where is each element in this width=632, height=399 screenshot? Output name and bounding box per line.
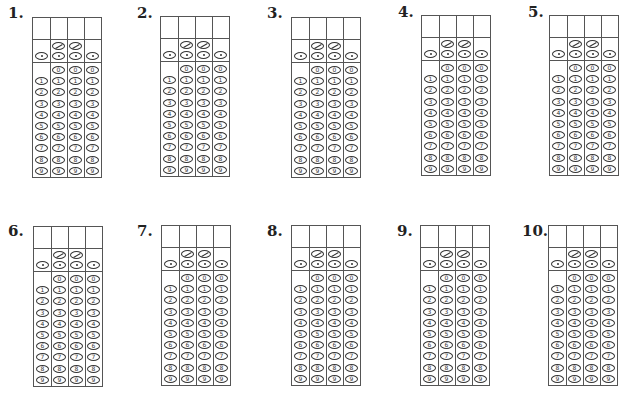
digit-bubble-8[interactable]: 8 bbox=[569, 154, 582, 162]
decimal-point-bubble[interactable] bbox=[86, 52, 99, 60]
digit-bubble-4[interactable]: 4 bbox=[311, 319, 324, 327]
digit-bubble-4[interactable]: 4 bbox=[345, 319, 358, 327]
decimal-point-bubble[interactable] bbox=[35, 52, 48, 60]
digit-bubble-5[interactable]: 5 bbox=[475, 120, 488, 128]
digit-bubble-1[interactable]: 1 bbox=[441, 75, 454, 83]
decimal-point-bubble[interactable] bbox=[197, 51, 210, 59]
digit-bubble-5[interactable]: 5 bbox=[328, 122, 341, 130]
fraction-slash-bubble[interactable] bbox=[440, 250, 453, 258]
digit-bubble-9[interactable]: 9 bbox=[423, 375, 436, 383]
digit-bubble-6[interactable]: 6 bbox=[552, 131, 565, 139]
write-in-box[interactable] bbox=[326, 226, 343, 247]
digit-bubble-0[interactable]: 0 bbox=[52, 66, 65, 74]
fraction-slash-bubble[interactable] bbox=[441, 40, 454, 48]
fraction-slash-bubble[interactable] bbox=[328, 42, 341, 50]
digit-bubble-5[interactable]: 5 bbox=[311, 122, 324, 130]
digit-bubble-4[interactable]: 4 bbox=[328, 111, 341, 119]
digit-bubble-4[interactable]: 4 bbox=[294, 111, 307, 119]
decimal-point-bubble[interactable] bbox=[294, 52, 307, 60]
digit-bubble-5[interactable]: 5 bbox=[603, 120, 616, 128]
digit-bubble-0[interactable]: 0 bbox=[214, 65, 227, 73]
digit-bubble-8[interactable]: 8 bbox=[568, 364, 581, 372]
digit-bubble-2[interactable]: 2 bbox=[311, 88, 324, 96]
digit-bubble-5[interactable]: 5 bbox=[474, 330, 487, 338]
digit-bubble-0[interactable]: 0 bbox=[328, 66, 341, 74]
digit-bubble-3[interactable]: 3 bbox=[423, 308, 436, 316]
write-in-box[interactable] bbox=[85, 227, 102, 248]
digit-bubble-2[interactable]: 2 bbox=[568, 296, 581, 304]
digit-bubble-9[interactable]: 9 bbox=[52, 167, 65, 175]
digit-bubble-2[interactable]: 2 bbox=[457, 296, 470, 304]
digit-bubble-3[interactable]: 3 bbox=[163, 99, 176, 107]
digit-bubble-7[interactable]: 7 bbox=[197, 143, 210, 151]
digit-bubble-9[interactable]: 9 bbox=[197, 166, 210, 174]
digit-bubble-0[interactable]: 0 bbox=[70, 275, 83, 283]
digit-bubble-0[interactable]: 0 bbox=[475, 64, 488, 72]
digit-bubble-6[interactable]: 6 bbox=[311, 133, 324, 141]
digit-bubble-1[interactable]: 1 bbox=[457, 285, 470, 293]
digit-bubble-9[interactable]: 9 bbox=[475, 165, 488, 173]
digit-bubble-7[interactable]: 7 bbox=[181, 352, 194, 360]
decimal-point-bubble[interactable] bbox=[328, 260, 341, 268]
digit-bubble-2[interactable]: 2 bbox=[458, 86, 471, 94]
digit-bubble-4[interactable]: 4 bbox=[164, 319, 177, 327]
digit-bubble-0[interactable]: 0 bbox=[440, 274, 453, 282]
digit-bubble-1[interactable]: 1 bbox=[35, 77, 48, 85]
digit-bubble-8[interactable]: 8 bbox=[345, 156, 358, 164]
digit-bubble-5[interactable]: 5 bbox=[53, 331, 66, 339]
write-in-box[interactable] bbox=[213, 226, 230, 247]
write-in-box[interactable] bbox=[583, 226, 600, 247]
digit-bubble-4[interactable]: 4 bbox=[215, 319, 228, 327]
digit-bubble-8[interactable]: 8 bbox=[423, 364, 436, 372]
digit-bubble-0[interactable]: 0 bbox=[215, 274, 228, 282]
digit-bubble-4[interactable]: 4 bbox=[87, 320, 100, 328]
digit-bubble-4[interactable]: 4 bbox=[424, 109, 437, 117]
digit-bubble-5[interactable]: 5 bbox=[441, 120, 454, 128]
digit-bubble-2[interactable]: 2 bbox=[294, 88, 307, 96]
write-in-box[interactable] bbox=[309, 18, 326, 39]
digit-bubble-5[interactable]: 5 bbox=[602, 330, 615, 338]
write-in-box[interactable] bbox=[33, 18, 50, 39]
digit-bubble-3[interactable]: 3 bbox=[475, 98, 488, 106]
digit-bubble-7[interactable]: 7 bbox=[424, 142, 437, 150]
digit-bubble-7[interactable]: 7 bbox=[163, 143, 176, 151]
digit-bubble-6[interactable]: 6 bbox=[424, 131, 437, 139]
digit-bubble-9[interactable]: 9 bbox=[457, 375, 470, 383]
digit-bubble-8[interactable]: 8 bbox=[474, 364, 487, 372]
digit-bubble-1[interactable]: 1 bbox=[214, 76, 227, 84]
write-in-box[interactable] bbox=[50, 18, 67, 39]
digit-bubble-2[interactable]: 2 bbox=[163, 87, 176, 95]
digit-bubble-3[interactable]: 3 bbox=[164, 308, 177, 316]
digit-bubble-9[interactable]: 9 bbox=[294, 167, 307, 175]
digit-bubble-2[interactable]: 2 bbox=[35, 88, 48, 96]
write-in-box[interactable] bbox=[566, 226, 583, 247]
digit-bubble-4[interactable]: 4 bbox=[602, 319, 615, 327]
digit-bubble-7[interactable]: 7 bbox=[457, 352, 470, 360]
decimal-point-bubble[interactable] bbox=[52, 52, 65, 60]
digit-bubble-9[interactable]: 9 bbox=[87, 376, 100, 384]
digit-bubble-4[interactable]: 4 bbox=[569, 109, 582, 117]
digit-bubble-1[interactable]: 1 bbox=[180, 76, 193, 84]
digit-bubble-4[interactable]: 4 bbox=[345, 111, 358, 119]
decimal-point-bubble[interactable] bbox=[36, 261, 49, 269]
digit-bubble-1[interactable]: 1 bbox=[197, 76, 210, 84]
digit-bubble-7[interactable]: 7 bbox=[36, 353, 49, 361]
digit-bubble-2[interactable]: 2 bbox=[70, 297, 83, 305]
digit-bubble-4[interactable]: 4 bbox=[181, 319, 194, 327]
digit-bubble-9[interactable]: 9 bbox=[214, 166, 227, 174]
digit-bubble-0[interactable]: 0 bbox=[458, 64, 471, 72]
digit-bubble-8[interactable]: 8 bbox=[552, 154, 565, 162]
write-in-box[interactable] bbox=[455, 226, 472, 247]
digit-bubble-6[interactable]: 6 bbox=[551, 341, 564, 349]
fraction-slash-bubble[interactable] bbox=[198, 250, 211, 258]
digit-bubble-3[interactable]: 3 bbox=[474, 308, 487, 316]
digit-bubble-2[interactable]: 2 bbox=[198, 296, 211, 304]
digit-bubble-7[interactable]: 7 bbox=[345, 144, 358, 152]
digit-bubble-9[interactable]: 9 bbox=[328, 167, 341, 175]
digit-bubble-8[interactable]: 8 bbox=[424, 154, 437, 162]
digit-bubble-7[interactable]: 7 bbox=[69, 144, 82, 152]
digit-bubble-8[interactable]: 8 bbox=[551, 364, 564, 372]
digit-bubble-6[interactable]: 6 bbox=[86, 133, 99, 141]
digit-bubble-1[interactable]: 1 bbox=[328, 285, 341, 293]
digit-bubble-1[interactable]: 1 bbox=[70, 286, 83, 294]
